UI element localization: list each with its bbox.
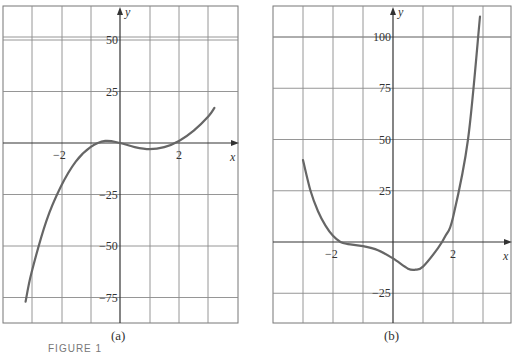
y-tick-label: 50 [106,33,118,47]
y-tick-label: −75 [99,291,118,305]
y-tick-label: 25 [106,85,118,99]
y-tick-label: −50 [99,239,118,253]
x-tick-label: 2 [450,247,456,261]
x-axis-label: x [502,249,509,263]
y-axis-label: y [397,5,404,19]
x-tick-label: −2 [53,148,66,162]
function-curve [303,17,480,271]
figure-canvas: xy−225025−25−50−75 xy−22100755025−25 [0,0,514,353]
plot-frame [273,6,511,323]
figure-label: FIGURE 1 [48,343,102,353]
y-tick-label: 100 [373,30,391,44]
chart-b-caption: (b) [384,328,399,344]
y-tick-label: 25 [379,184,391,198]
y-tick-label: −25 [99,188,118,202]
x-tick-label: −2 [325,247,338,261]
chart-a: xy−225025−25−50−75 [3,5,239,323]
chart-b: xy−22100755025−25 [273,5,512,323]
chart-a-caption: (a) [111,328,125,344]
y-axis-arrow-icon [117,7,123,15]
x-axis-label: x [229,150,236,164]
y-axis-label: y [124,5,131,19]
x-tick-label: 2 [176,148,182,162]
y-axis-arrow-icon [390,7,396,15]
y-tick-label: −25 [372,286,391,300]
y-tick-label: 75 [379,81,391,95]
y-tick-label: 50 [379,133,391,147]
